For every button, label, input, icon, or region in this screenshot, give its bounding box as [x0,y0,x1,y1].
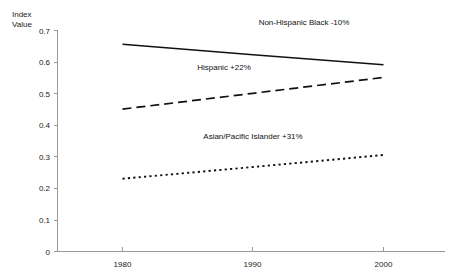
y-tick-label: 0 [46,248,51,257]
series-label-hispanic: Hispanic +22% [197,63,251,72]
series-line-hispanic [123,77,384,109]
series-group [123,44,384,178]
x-tick-label: 1980 [114,260,132,269]
y-axis-title-line2: Value [12,20,32,29]
y-tick-label: 0.7 [39,27,51,36]
x-tick-label: 1990 [244,260,262,269]
series-line-asian-pacific-islander [123,155,384,179]
y-tick-label: 0.5 [39,90,51,99]
x-axis-ticks: 1980 1990 2000 [114,247,393,269]
x-tick-label: 2000 [375,260,393,269]
y-tick-label: 0.4 [39,121,51,130]
y-tick-label: 0.1 [39,216,51,225]
series-label-non-hispanic-black: Non-Hispanic Black -10% [259,18,350,27]
y-axis-title-line1: Index [12,10,32,19]
y-tick-label: 0.2 [39,184,51,193]
series-annotations: Non-Hispanic Black -10% Hispanic +22% As… [197,18,349,141]
series-line-non-hispanic-black [123,44,384,65]
chart-container: Index Value 0.7 0.6 0.5 0.4 0.3 0.2 0.1 … [0,0,469,280]
series-label-asian-pacific-islander: Asian/Pacific Islander +31% [203,132,302,141]
y-axis-ticks: 0.7 0.6 0.5 0.4 0.3 0.2 0.1 0 [39,27,58,257]
y-tick-label: 0.3 [39,153,51,162]
line-chart: Index Value 0.7 0.6 0.5 0.4 0.3 0.2 0.1 … [0,0,469,280]
y-tick-label: 0.6 [39,58,51,67]
